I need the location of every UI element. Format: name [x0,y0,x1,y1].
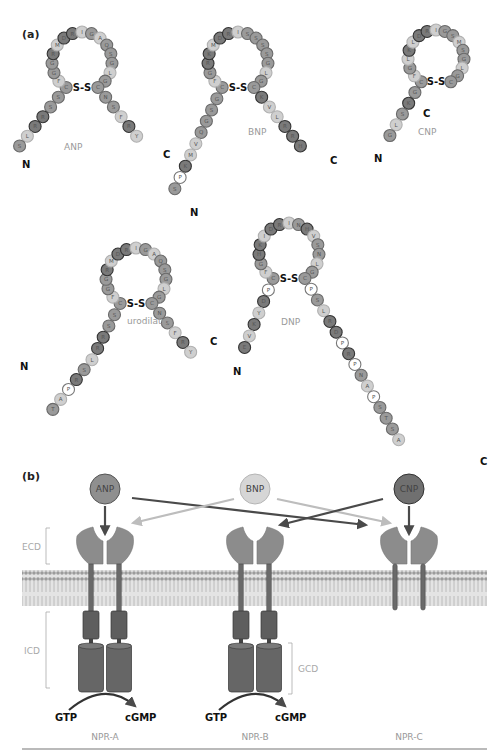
residue-letter: S [261,42,265,48]
amino-acid-residue: S [206,104,218,116]
amino-acid-residue: R [279,120,291,132]
amino-acid-residue: S [108,309,120,321]
ecd-label: ECD [22,542,41,552]
residue-letter: S [254,35,258,41]
residue-letter: F [120,114,123,120]
amino-acid-residue: P [262,284,274,296]
ligand-bnp: BNP [240,474,270,504]
kinase-homology-domain [111,611,127,639]
residue-letter: G [50,60,54,66]
peptide-name: CNP [418,127,437,137]
residue-letter: G [408,65,412,71]
amino-acid-residue: V [190,138,202,150]
residue-letter: G [208,70,212,76]
residue-letter: C [303,275,307,281]
amino-acid-residue: R [97,331,109,343]
transmembrane-helix [421,564,425,610]
amino-acid-residue: Y [185,346,197,358]
amino-acid-residue: P [336,337,348,349]
residue-letter: H [257,251,261,257]
residue-letter: C [271,275,275,281]
residue-letter: Y [256,310,261,316]
residue-letter: K [252,321,256,327]
amino-acid-residue: D [258,295,270,307]
residue-letter: G [110,60,114,66]
receptor-npr-a: GTPcGMPNPR-A [55,527,156,742]
residue-letter: R [74,377,78,383]
residue-letter: M [188,152,193,158]
amino-acid-residue: K [403,97,415,109]
amino-acid-residue: E [239,341,251,353]
residue-letter: F [213,78,216,84]
amino-acid-residue: F [115,111,127,123]
residue-letter: E [243,344,247,350]
extracellular-domain [381,527,408,564]
peptide-name: ANP [64,142,83,152]
amino-acid-residue: M [185,149,197,161]
peptide-anp: S-SCFGGRMDRIGAQSGLGCSSRRLSNSFRYANPNC [14,26,171,170]
residue-letter: N [359,372,363,378]
guanylyl-cyclase-domain [257,644,282,692]
amino-acid-residue: G [200,115,212,127]
amino-acid-residue: S [103,320,115,332]
residue-letter: S [109,51,113,57]
residue-letter: M [55,42,60,48]
residue-letter: S [401,111,405,117]
residue-letter: C [220,84,224,90]
amino-acid-residue: R [37,111,49,123]
residue-letter: C [64,84,68,90]
amino-acid-residue: G [384,129,396,141]
amino-acid-residue: D [330,326,342,338]
c-terminus-label: C [163,149,170,160]
residue-letter: R [181,339,185,345]
amino-acid-residue: S [169,183,181,195]
amino-acid-residue: Y [131,130,143,142]
residue-letter: R [425,28,429,34]
guanylyl-cyclase-domain [107,644,132,692]
icd-label: ICD [24,646,40,656]
residue-letter: R [101,334,105,340]
amino-acid-residue: T [47,403,59,415]
residue-letter: Y [188,349,193,355]
peptide-name: DNP [281,317,301,327]
panel-a-label: (a) [22,28,39,41]
amino-acid-residue: N [100,91,112,103]
panel-b-label: (b) [22,470,40,483]
residue-letter: S [265,51,269,57]
residue-letter: N [317,251,321,257]
amino-acid-residue: R [324,315,336,327]
residue-letter: V [247,333,251,339]
kinase-homology-domain [233,611,249,639]
residue-letter: K [207,51,211,57]
residue-letter: T [383,415,388,421]
ligand-anp-label: ANP [96,484,115,494]
amino-acid-residue: A [393,434,405,446]
amino-acid-residue: Q [195,126,207,138]
residue-letter: G [310,269,314,275]
residue-letter: G [215,96,219,102]
icd-bracket: ICD [24,612,50,688]
residue-letter: S [391,426,395,432]
amino-acid-residue: P [305,283,317,295]
amino-acid-residue: V [263,101,275,113]
residue-letter: G [204,118,208,124]
residue-letter: R [71,31,75,37]
residue-letter: R [278,222,282,228]
residue-letter: V [268,104,272,110]
extracellular-domain [257,527,284,564]
residue-letter: H [305,226,309,232]
residue-letter: S [112,104,116,110]
residue-letter: T [50,406,55,412]
amino-acid-residue: S [45,101,57,113]
residue-letter: G [164,276,168,282]
amino-acid-residue: L [271,111,283,123]
residue-letter: C [96,84,100,90]
residue-letter: S [378,404,382,410]
residue-letter: G [89,31,93,37]
gtp-label: GTP [205,712,227,723]
amino-acid-residue: S [78,364,90,376]
gtp-to-cgmp-arrow [219,694,285,710]
residue-letter: A [366,383,370,389]
residue-letter: Q [159,258,164,264]
residue-letter: A [397,437,401,443]
